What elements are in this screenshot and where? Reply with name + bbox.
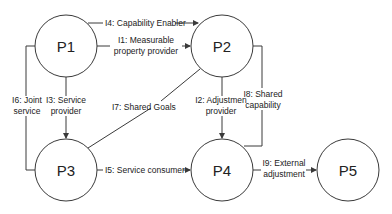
edge-i2: I2: Adjustmen provider [195, 77, 247, 138]
edge-i5: I5: Service consumer [97, 165, 190, 175]
node-label-p5: P5 [339, 162, 357, 179]
edge-i9: I9: External adjustment [253, 158, 316, 179]
node-p1: P1 [35, 15, 97, 77]
edge-label-i5: I5: Service consumer [105, 165, 185, 175]
edge-label-i9-line2: adjustment [263, 169, 305, 179]
edge-i4: I4: Capability Enabler [88, 18, 198, 28]
edge-i7: I7: Shared Goals [88, 69, 200, 148]
edge-label-i7: I7: Shared Goals [112, 102, 176, 112]
edge-label-i4: I4: Capability Enabler [105, 18, 186, 28]
node-label-p4: P4 [213, 162, 231, 179]
edge-label-i8-line1: I8: Shared [243, 89, 282, 99]
edge-label-i2-line1: I2: Adjustmen [195, 95, 247, 105]
edge-i6: I6: Joint service [12, 46, 42, 170]
edge-label-i1-line1: I1: Measurable [118, 35, 174, 45]
edge-label-i6-line1: I6: Joint [12, 95, 42, 105]
node-p2: P2 [191, 15, 253, 77]
node-label-p1: P1 [57, 38, 75, 55]
edge-label-i1-line2: property provider [114, 46, 178, 56]
edge-label-i2-line2: provider [206, 106, 237, 116]
edge-label-i6-line2: service [14, 106, 41, 116]
node-label-p2: P2 [213, 38, 231, 55]
diagram-canvas: I4: Capability Enabler I1: Measurable pr… [0, 0, 392, 214]
edge-i1: I1: Measurable property provider [97, 35, 190, 57]
edge-label-i8-line2: capability [245, 100, 281, 110]
edge-label-i3-line2: provider [51, 106, 82, 116]
node-p3: P3 [35, 139, 97, 201]
node-label-p3: P3 [57, 162, 75, 179]
edge-label-i9-line1: I9: External [263, 158, 306, 168]
node-p4: P4 [191, 139, 253, 201]
edge-i3: I3: Service provider [46, 77, 86, 138]
node-p5: P5 [317, 139, 379, 201]
edge-label-i3-line1: I3: Service [46, 95, 86, 105]
